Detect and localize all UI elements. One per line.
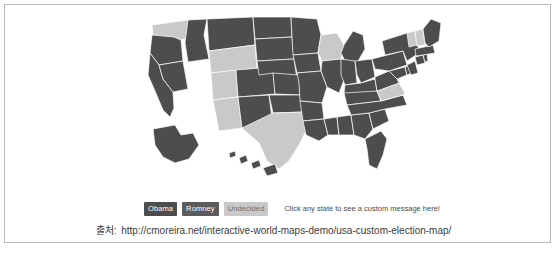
map-state-oh[interactable]: Ohio — Obama: [355, 59, 375, 83]
map-legend[interactable]: Obama Romney Undecided Click any state t…: [144, 202, 440, 216]
source-url: http://cmoreira.net/interactive-world-ma…: [121, 225, 451, 236]
states-layer[interactable]: Washington — UndecidedOregon — ObamaCali…: [148, 17, 441, 176]
source-caption: 출처: http://cmoreira.net/interactive-worl…: [0, 224, 547, 238]
map-state-ok[interactable]: Oklahoma — Obama: [269, 95, 303, 113]
map-hint-text: Click any state to see a custom message …: [284, 204, 440, 214]
map-state-ar[interactable]: Arkansas — Obama: [300, 101, 324, 121]
usa-map-svg[interactable]: Washington — UndecidedOregon — ObamaCali…: [141, 13, 461, 195]
map-state-id[interactable]: Idaho — Obama: [185, 19, 209, 62]
map-state-mn[interactable]: Minnesota — Obama: [291, 17, 321, 55]
map-state-mi[interactable]: Michigan — Obama: [341, 31, 365, 63]
map-state-wi[interactable]: Wisconsin — Undecided: [318, 33, 344, 61]
usa-election-map[interactable]: Washington — UndecidedOregon — ObamaCali…: [141, 13, 461, 195]
map-state-nd[interactable]: North Dakota — Obama: [253, 17, 292, 39]
map-state-ak[interactable]: Alaska — Obama: [153, 125, 199, 163]
map-card: Washington — UndecidedOregon — ObamaCali…: [4, 4, 551, 243]
map-state-sd[interactable]: South Dakota — Obama: [255, 37, 294, 61]
screenshot-root: Washington — UndecidedOregon — ObamaCali…: [0, 0, 556, 256]
source-label: 출처:: [96, 225, 117, 236]
map-state-ks[interactable]: Kansas — Obama: [273, 73, 300, 95]
map-state-me[interactable]: Maine — Obama: [423, 19, 441, 47]
map-state-fl[interactable]: Florida — Obama: [365, 131, 387, 169]
map-state-ia[interactable]: Iowa — Obama: [293, 53, 321, 73]
map-state-in[interactable]: Indiana — Obama: [341, 59, 357, 85]
legend-button-romney[interactable]: Romney: [182, 202, 219, 216]
map-state-la[interactable]: Louisiana — Obama: [303, 119, 328, 141]
legend-button-obama[interactable]: Obama: [144, 202, 177, 216]
legend-button-undecided[interactable]: Undecided: [224, 202, 269, 216]
map-state-ut[interactable]: Utah — Undecided: [211, 70, 238, 100]
map-state-az[interactable]: Arizona — Undecided: [213, 97, 242, 131]
